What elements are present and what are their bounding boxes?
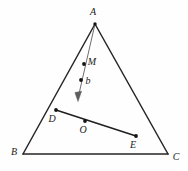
label-c-vertex: C (173, 151, 180, 162)
dot-e (134, 134, 138, 138)
label-o: O (79, 124, 86, 135)
dot-a (93, 22, 96, 25)
vector-b-arrowhead (75, 91, 82, 101)
dot-d (54, 108, 58, 112)
figure-labels: A B C M b D O E (11, 6, 180, 162)
figure-canvas: A B C M b D O E (0, 0, 188, 171)
point-dots (54, 22, 138, 138)
geometry-figure: A B C M b D O E (0, 0, 188, 171)
triangle-outline (23, 24, 168, 154)
segment-de (56, 110, 136, 136)
dot-o (83, 119, 87, 123)
label-m: M (87, 56, 97, 67)
segment-de-group (56, 110, 136, 136)
label-b-point: b (86, 75, 91, 86)
dot-m (82, 62, 86, 66)
label-a: A (89, 6, 97, 17)
label-b-vertex: B (11, 146, 17, 157)
label-e: E (129, 139, 136, 150)
dot-b (79, 78, 83, 82)
label-d: D (47, 113, 56, 124)
